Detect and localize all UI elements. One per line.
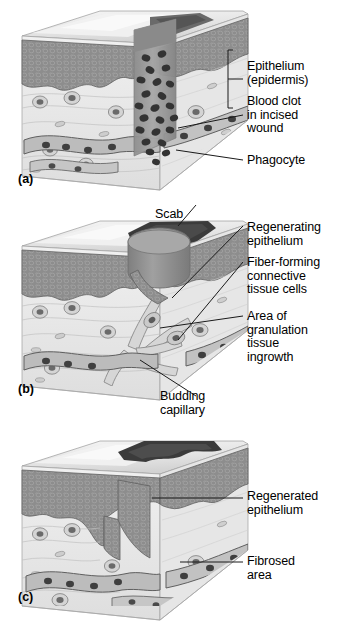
panel-tag-b: (b) [18,382,34,396]
label-blood-clot: Blood clot in incised wound [247,95,301,136]
label-epithelium: Epithelium (epidermis) [247,60,308,87]
panel-a: (a) Epithelium (epidermis) Blood clot in… [0,0,343,200]
label-regenerating-epithelium: Regenerating epithelium [247,221,321,248]
panel-tag-c: (c) [18,590,33,604]
label-phagocyte: Phagocyte [247,154,305,168]
label-regenerated-epithelium: Regenerated epithelium [247,490,318,517]
label-fiber-forming-cells: Fiber-forming connective tissue cells [247,256,320,297]
skin-block-b [22,221,248,400]
panel-b: (b) Scab Regenerating epithelium Fiber-f… [0,200,343,420]
skin-block-a [22,11,248,190]
label-budding-capillary: Budding capillary [160,390,205,417]
label-scab: Scab [155,208,183,222]
panel-c: (c) Regenerated epithelium Fibrosed area [0,420,343,622]
panel-c-illustration [0,420,343,622]
label-fibrosed-area: Fibrosed area [247,555,295,582]
skin-block-c [22,441,248,620]
wound-healing-figure: (a) Epithelium (epidermis) Blood clot in… [0,0,343,622]
panel-tag-a: (a) [18,172,33,186]
label-granulation-area: Area of granulation tissue ingrowth [247,310,308,364]
